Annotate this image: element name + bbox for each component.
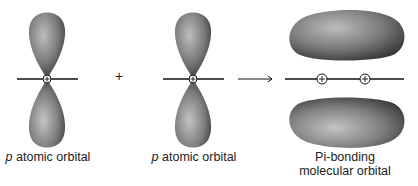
plus-operator: + [115, 68, 123, 84]
label-italic: p [152, 150, 159, 164]
arrow-icon [238, 76, 272, 82]
label-text: atomic orbital [159, 150, 237, 164]
label-text: atomic orbital [13, 150, 91, 164]
label-line1: Pi-bonding [290, 150, 400, 164]
lower-lobe [175, 80, 211, 148]
middle-p-orbital [163, 13, 224, 148]
label-line2: molecular orbital [290, 164, 400, 178]
middle-orbital-label: p atomic orbital [146, 150, 242, 164]
upper-lobe [175, 13, 211, 79]
pi-bonding-orbital [285, 10, 405, 148]
left-p-orbital [17, 13, 78, 148]
lower-lobe [29, 80, 65, 148]
result-orbital-label: Pi-bonding molecular orbital [290, 150, 400, 178]
left-orbital-label: p atomic orbital [0, 150, 96, 164]
label-italic: p [6, 150, 13, 164]
upper-lobe [29, 13, 65, 79]
lower-lobe [289, 97, 404, 147]
upper-lobe [289, 10, 404, 60]
